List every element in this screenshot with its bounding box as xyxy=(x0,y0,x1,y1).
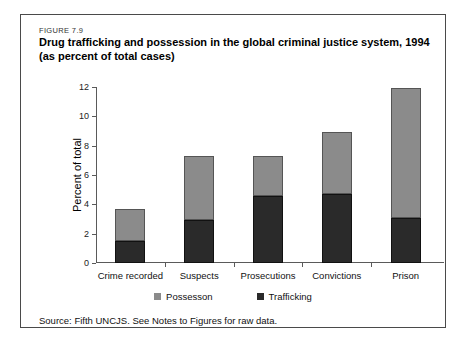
bar-segment-trafficking[interactable] xyxy=(322,194,352,263)
y-axis-tick-label: 2 xyxy=(84,229,89,238)
bar-crime-recorded[interactable] xyxy=(115,209,145,263)
legend-item-possession: Possesson xyxy=(154,291,212,302)
y-axis-title: Percent of total xyxy=(71,138,83,212)
y-axis-tick xyxy=(92,116,96,117)
legend-swatch-possession-icon xyxy=(154,293,161,300)
figure-title-line-2: (as percent of total cases) xyxy=(39,50,431,64)
bar-convictions[interactable] xyxy=(322,132,352,263)
figure-title-line-1: Drug trafficking and possession in the g… xyxy=(39,36,431,50)
x-axis-label: Prosecutions xyxy=(241,270,296,281)
chart-plot-area: Percent of total 024681012 Crime recorde… xyxy=(96,87,440,263)
y-axis-tick xyxy=(92,204,96,205)
y-axis-tick-label: 6 xyxy=(84,171,89,180)
y-axis-tick-label: 10 xyxy=(79,112,89,121)
y-axis-line xyxy=(96,87,97,263)
source-note: Source: Fifth UNCJS. See Notes to Figure… xyxy=(39,315,277,326)
chart-legend: Possesson Trafficking xyxy=(21,291,445,302)
x-axis-label: Suspects xyxy=(180,270,219,281)
bar-segment-possession[interactable] xyxy=(115,209,145,241)
x-axis-tick xyxy=(371,263,372,267)
bar-prosecutions[interactable] xyxy=(253,156,283,263)
figure-title: Drug trafficking and possession in the g… xyxy=(39,36,431,63)
y-axis-tick xyxy=(92,175,96,176)
figure-number: FIGURE 7.9 xyxy=(39,26,83,35)
figure-frame: FIGURE 7.9 Drug trafficking and possessi… xyxy=(20,14,446,328)
bar-segment-possession[interactable] xyxy=(184,156,214,221)
y-axis-tick xyxy=(92,87,96,88)
bar-segment-trafficking[interactable] xyxy=(253,196,283,263)
legend-label-possession: Possesson xyxy=(166,291,212,302)
bar-segment-trafficking[interactable] xyxy=(184,220,214,263)
y-axis-tick-label: 0 xyxy=(84,259,89,268)
y-axis-tick xyxy=(92,263,96,264)
x-axis-label: Convictions xyxy=(312,270,361,281)
bar-segment-trafficking[interactable] xyxy=(115,241,145,263)
bar-prison[interactable] xyxy=(391,88,421,263)
legend-swatch-trafficking-icon xyxy=(257,293,264,300)
x-axis-label: Crime recorded xyxy=(98,270,163,281)
y-axis-tick-label: 8 xyxy=(84,141,89,150)
y-axis-tick-label: 4 xyxy=(84,200,89,209)
bar-suspects[interactable] xyxy=(184,156,214,263)
legend-label-trafficking: Trafficking xyxy=(269,291,312,302)
y-axis-tick-label: 12 xyxy=(79,83,89,92)
x-axis-tick xyxy=(234,263,235,267)
bar-segment-possession[interactable] xyxy=(322,132,352,194)
legend-item-trafficking: Trafficking xyxy=(257,291,312,302)
bar-segment-trafficking[interactable] xyxy=(391,218,421,263)
x-axis-tick xyxy=(302,263,303,267)
x-axis-label: Prison xyxy=(392,270,419,281)
bar-segment-possession[interactable] xyxy=(253,156,283,196)
x-axis-tick xyxy=(165,263,166,267)
y-axis-tick xyxy=(92,234,96,235)
y-axis-tick xyxy=(92,146,96,147)
bar-segment-possession[interactable] xyxy=(391,88,421,217)
